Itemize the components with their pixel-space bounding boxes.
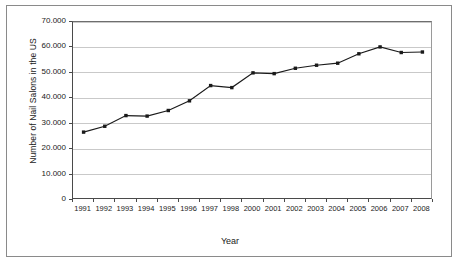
x-tick-mark <box>93 199 94 202</box>
data-point-marker <box>251 71 254 74</box>
x-tick-label: 2006 <box>371 204 388 213</box>
x-tick-mark <box>72 199 73 202</box>
x-tick-label: 1993 <box>117 204 134 213</box>
x-tick-mark <box>368 199 369 202</box>
x-tick-label: 2000 <box>244 204 261 213</box>
x-tick-mark <box>220 199 221 202</box>
x-tick-mark <box>241 199 242 202</box>
data-point-marker <box>378 45 381 48</box>
x-tick-mark <box>390 199 391 202</box>
x-tick-label: 2003 <box>307 204 324 213</box>
x-tick-label: 1996 <box>180 204 197 213</box>
data-point-marker <box>336 61 339 64</box>
data-point-marker <box>82 130 85 133</box>
data-point-marker <box>272 72 275 75</box>
x-tick-label: 1997 <box>201 204 218 213</box>
chart-figure: Number of Nail Salons in the US 010.0002… <box>0 0 460 263</box>
data-point-marker <box>145 114 148 117</box>
x-tick-label: 2008 <box>413 204 430 213</box>
data-point-marker <box>209 84 212 87</box>
x-tick-label: 1995 <box>159 204 176 213</box>
plot-area <box>72 21 432 199</box>
y-tick-label: 10.000 <box>6 169 66 178</box>
x-tick-mark <box>305 199 306 202</box>
x-tick-mark <box>136 199 137 202</box>
x-tick-label: 2007 <box>392 204 409 213</box>
y-tick-label: 0 <box>6 194 66 203</box>
x-tick-label: 2005 <box>350 204 367 213</box>
x-tick-label: 1991 <box>74 204 91 213</box>
data-point-marker <box>103 125 106 128</box>
x-tick-label: 1992 <box>95 204 112 213</box>
y-tick-label: 30.000 <box>6 118 66 127</box>
x-tick-mark <box>347 199 348 202</box>
data-point-marker <box>357 52 360 55</box>
data-point-marker <box>421 50 424 53</box>
y-tick-label: 20.000 <box>6 143 66 152</box>
data-point-marker <box>230 86 233 89</box>
x-tick-mark <box>411 199 412 202</box>
x-tick-mark <box>432 199 433 202</box>
y-tick-label: 40.000 <box>6 92 66 101</box>
x-tick-label: 2004 <box>328 204 345 213</box>
x-tick-label: 1998 <box>222 204 239 213</box>
line-series <box>73 22 433 200</box>
x-tick-mark <box>157 199 158 202</box>
x-tick-label: 2002 <box>286 204 303 213</box>
y-tick-label: 50.000 <box>6 67 66 76</box>
x-tick-mark <box>263 199 264 202</box>
data-point-marker <box>294 67 297 70</box>
x-tick-mark <box>178 199 179 202</box>
x-tick-mark <box>284 199 285 202</box>
x-tick-mark <box>114 199 115 202</box>
data-point-marker <box>124 114 127 117</box>
x-tick-mark <box>326 199 327 202</box>
y-tick-label: 70.000 <box>6 16 66 25</box>
data-point-marker <box>167 109 170 112</box>
y-tick-label: 60.000 <box>6 41 66 50</box>
x-tick-mark <box>199 199 200 202</box>
data-point-marker <box>400 51 403 54</box>
series-line <box>84 47 423 132</box>
data-point-marker <box>315 64 318 67</box>
x-axis-title: Year <box>0 236 460 246</box>
x-tick-label: 1994 <box>138 204 155 213</box>
x-tick-label: 2001 <box>265 204 282 213</box>
data-point-marker <box>188 99 191 102</box>
